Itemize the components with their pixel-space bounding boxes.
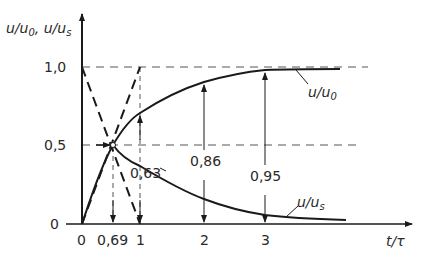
curve-label-us: u/us [297, 194, 325, 212]
annotation-086: 0,86 [190, 153, 221, 169]
x-tick-3: 3 [261, 232, 270, 248]
y-tick-05: 0,5 [44, 137, 66, 153]
intersection-point [111, 143, 116, 148]
annotation-063: 0,63 [130, 165, 161, 181]
leader-u0 [296, 70, 308, 84]
curve-label-u0: u/u0 [308, 84, 337, 102]
y-tick-1: 1,0 [44, 59, 66, 75]
x-tick-0: 0 [77, 232, 86, 248]
x-axis-title: t/τ [386, 233, 405, 249]
x-tick-069: 0,69 [97, 232, 128, 248]
x-tick-2: 2 [200, 232, 209, 248]
chart-canvas: u/u0, u/us 1,0 0,5 0 0 0,69 1 2 3 t/τ 0,… [0, 0, 432, 259]
annotation-095: 0,95 [250, 168, 281, 184]
x-tick-1: 1 [136, 232, 145, 248]
y-tick-0: 0 [50, 216, 59, 232]
y-axis-title: u/u0, u/us [6, 20, 71, 38]
